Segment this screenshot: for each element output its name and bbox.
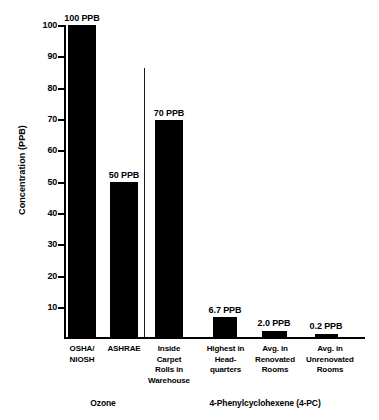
y-tick-30 (58, 244, 66, 246)
y-tick-100 (58, 25, 66, 27)
category-line: Rooms (298, 365, 362, 376)
y-tick-20 (58, 276, 66, 278)
category-line: Inside (143, 344, 195, 355)
category-line: Head- (198, 355, 253, 366)
y-tick-label-100: 100 (17, 21, 57, 30)
y-tick-label-30: 30 (17, 240, 57, 249)
bar-value-avg-unrenovated-rooms: 0.2 PPB (301, 321, 351, 331)
bar-avg-renovated-rooms (262, 331, 287, 338)
y-tick-60 (58, 150, 66, 152)
bar-inside-carpet-rolls (155, 120, 183, 338)
category-line: ASHRAE (100, 344, 148, 355)
category-line: NIOSH (56, 355, 108, 366)
y-tick-label-80: 80 (17, 84, 57, 93)
y-tick-50 (58, 182, 66, 184)
group-label-ozone: Ozone (60, 398, 146, 408)
category-line: Renovated (247, 355, 303, 366)
category-line: Carpet (143, 355, 195, 366)
category-label-avg-renovated-rooms: Avg. in Renovated Rooms (247, 344, 303, 376)
category-line: Highest in (198, 344, 253, 355)
bar-value-ashrae: 50 PPB (99, 170, 149, 180)
bar-value-avg-renovated-rooms: 2.0 PPB (249, 318, 299, 328)
y-tick-label-40: 40 (17, 209, 57, 218)
bar-highest-headquarters (213, 317, 237, 338)
bar-value-highest-headquarters: 6.7 PPB (200, 305, 250, 315)
y-tick-label-20: 20 (17, 272, 57, 281)
category-line: Rolls in (143, 365, 195, 376)
bar-ashrae (110, 182, 138, 338)
y-tick-label-50: 50 (17, 178, 57, 187)
bar-value-inside-carpet-rolls: 70 PPB (144, 108, 194, 118)
plot-area: Concentration (PPB) 100 90 80 70 60 50 4… (0, 0, 379, 420)
y-tick-label-90: 90 (17, 52, 57, 61)
category-line: Avg. in (298, 344, 362, 355)
y-tick-label-10: 10 (17, 303, 57, 312)
bar-chart-figure: Concentration (PPB) 100 90 80 70 60 50 4… (0, 0, 379, 420)
group-label-4pc: 4-Phenylcyclohexene (4-PC) (170, 398, 360, 408)
bar-avg-unrenovated-rooms (315, 334, 338, 338)
y-tick-90 (58, 56, 66, 58)
bar-value-osha-niosh: 100 PPB (57, 13, 107, 23)
category-line: Avg. in (247, 344, 303, 355)
y-tick-40 (58, 213, 66, 215)
y-tick-10 (58, 307, 66, 309)
y-tick-80 (58, 88, 66, 90)
category-line: Rooms (247, 365, 303, 376)
category-label-avg-unrenovated-rooms: Avg. in Unrenovated Rooms (298, 344, 362, 376)
y-tick-70 (58, 119, 66, 121)
category-label-ashrae: ASHRAE (100, 344, 148, 355)
category-line: Unrenovated (298, 355, 362, 366)
category-line: quarters (198, 365, 253, 376)
category-line: Warehouse (143, 376, 195, 387)
bar-osha-niosh (68, 25, 96, 338)
y-tick-label-60: 60 (17, 146, 57, 155)
y-tick-label-70: 70 (17, 115, 57, 124)
category-label-inside-carpet-rolls: Inside Carpet Rolls in Warehouse (143, 344, 195, 386)
category-label-highest-headquarters: Highest in Head- quarters (198, 344, 253, 376)
